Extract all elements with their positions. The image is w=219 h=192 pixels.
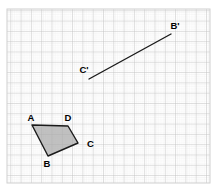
grid-fill <box>7 9 210 183</box>
label-c-prime: C' <box>79 64 88 75</box>
label-b: B <box>44 158 51 169</box>
figure-canvas: A B C D C' B' <box>0 0 219 192</box>
geometry-figure: A B C D C' B' <box>0 0 219 192</box>
label-a: A <box>28 112 35 123</box>
label-d: D <box>65 112 72 123</box>
grid-paper <box>7 9 210 183</box>
label-c: C <box>87 138 94 149</box>
label-b-prime: B' <box>170 20 179 31</box>
